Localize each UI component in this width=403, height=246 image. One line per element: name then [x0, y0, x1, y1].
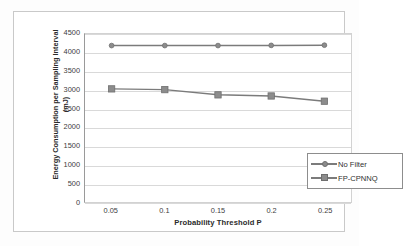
y-axis-tick-label: 0 — [40, 199, 80, 207]
legend-marker-square-icon — [311, 172, 337, 184]
y-axis-tick-label: 1000 — [40, 161, 80, 169]
y-axis-tick-label: 4500 — [40, 29, 80, 37]
legend-item-no-filter[interactable]: No Filter — [311, 157, 398, 171]
data-point-square — [268, 93, 274, 99]
y-axis-tick-label: 1500 — [40, 142, 80, 150]
chart-frame: Energy Consumption per Sampling Interval… — [13, 11, 345, 232]
y-axis-tick-label: 500 — [40, 180, 80, 188]
x-axis-tick-labels: 0.050.10.150.20.25 — [84, 206, 352, 218]
y-axis-tick-labels: 450040003500300025002000150010005000 — [38, 33, 80, 203]
x-axis-tick-label: 0.1 — [141, 206, 187, 215]
y-axis-tick-label: 3000 — [40, 86, 80, 94]
data-point-square — [162, 86, 168, 92]
x-axis-title: Probability Threshold P — [84, 218, 352, 227]
data-point-diamond — [109, 43, 114, 48]
data-point-diamond — [269, 43, 274, 48]
chart-legend: No Filter FP-CPNNQ — [307, 153, 403, 189]
data-point-square — [108, 86, 114, 92]
y-axis-tick-label: 2000 — [40, 123, 80, 131]
legend-label-fp-cpnnq: FP-CPNNQ — [337, 174, 378, 183]
x-axis-tick-label: 0.05 — [88, 206, 134, 215]
y-axis-tick-label: 2500 — [40, 105, 80, 113]
y-axis-tick-label: 3500 — [40, 67, 80, 75]
x-axis-tick-label: 0.15 — [195, 206, 241, 215]
plot-area: No Filter FP-CPNNQ — [84, 33, 352, 203]
x-axis-tick-label: 0.2 — [249, 206, 295, 215]
legend-label-no-filter: No Filter — [337, 160, 367, 169]
data-point-square — [215, 92, 221, 98]
data-point-diamond — [162, 43, 167, 48]
legend-marker-diamond-icon — [311, 158, 337, 170]
x-axis-tick-label: 0.25 — [302, 206, 348, 215]
data-point-diamond — [322, 43, 327, 48]
data-point-diamond — [216, 43, 221, 48]
y-axis-tick-label: 4000 — [40, 48, 80, 56]
gridline — [85, 203, 351, 204]
data-point-square — [321, 98, 327, 104]
legend-item-fp-cpnnq[interactable]: FP-CPNNQ — [311, 171, 398, 185]
